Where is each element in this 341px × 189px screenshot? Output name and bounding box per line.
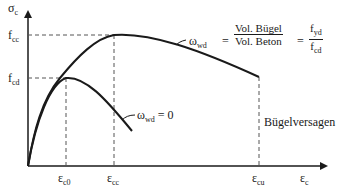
fyd-sub: yd [314, 28, 322, 37]
fraction-denominator: Vol. Beton [235, 35, 282, 47]
ecc-sub: cc [112, 178, 119, 187]
omega0-sub: wd [145, 115, 155, 124]
omega-sub: wd [197, 41, 207, 50]
fcd-sub: cd [12, 78, 20, 87]
fraction-numerator: Vol. Bügel [234, 22, 283, 35]
fcc-label: fcc [8, 29, 19, 46]
fcd-den-sub: cd [314, 46, 322, 55]
omega0-symbol: ω [137, 108, 145, 122]
ec0-label: εc0 [58, 172, 71, 189]
ecc-label: εcc [107, 172, 119, 189]
omega0-value: = 0 [158, 108, 174, 122]
fcd-label: fcd [8, 72, 20, 89]
ec0-sub: c0 [63, 178, 71, 187]
strength-ratio-fraction: fyd fcd [309, 22, 323, 57]
ecu-sub: cu [257, 178, 265, 187]
confined-leader [176, 40, 186, 45]
fcc-sub: cc [12, 35, 19, 44]
fcd: fcd [310, 40, 321, 57]
omega-zero-label: ωwd = 0 [137, 109, 173, 126]
x-axis-sub: c [305, 178, 309, 187]
x-axis-label: εc [300, 172, 309, 189]
y-axis-label: σc [8, 2, 18, 19]
unconfined-leader [122, 115, 135, 120]
equals-2: = [297, 35, 304, 47]
ecu-label: εcu [252, 172, 265, 189]
volume-ratio-fraction: Vol. Bügel Vol. Beton [234, 22, 283, 47]
omega-wd-label: ωwd [189, 35, 207, 52]
y-axis-sub: c [14, 8, 18, 17]
fyd: fyd [309, 22, 323, 40]
confined-curve [28, 35, 259, 166]
omega-symbol: ω [189, 34, 197, 48]
stirrup-failure-label: Bügelversagen [264, 116, 335, 128]
diagram-canvas [0, 0, 341, 189]
equals-1: = [222, 35, 229, 47]
unconfined-curve [28, 78, 132, 166]
